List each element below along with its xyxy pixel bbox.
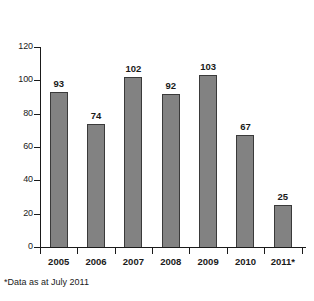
y-tick-label: 0 [7, 242, 33, 251]
y-tick-label: 40 [7, 175, 33, 184]
chart-footnote: *Data as at July 2011 [4, 277, 89, 288]
bar [162, 94, 180, 247]
y-tick-label: 120 [7, 42, 33, 51]
bar-value-label: 74 [79, 111, 113, 121]
x-tick-mark [189, 248, 190, 254]
y-tick-label: 60 [7, 142, 33, 151]
bar-value-label: 25 [266, 192, 300, 202]
bar [50, 92, 68, 247]
bar-value-label: 102 [116, 64, 150, 74]
x-axis-category-label: 2011* [261, 256, 305, 267]
plot-area [40, 47, 306, 247]
x-tick-mark [115, 248, 116, 254]
x-tick-mark [302, 248, 303, 254]
bar-value-label: 67 [228, 122, 262, 132]
bar [236, 135, 254, 247]
x-tick-mark [227, 248, 228, 254]
bar-value-label: 103 [191, 62, 225, 72]
x-tick-mark [77, 248, 78, 254]
x-tick-mark [264, 248, 265, 254]
x-axis-line [40, 247, 306, 248]
bar [124, 77, 142, 247]
bar-chart: 020406080100120 9374102921036725 2005200… [0, 0, 314, 301]
bar [199, 75, 217, 247]
y-tick-label: 80 [7, 109, 33, 118]
bar [87, 124, 105, 247]
bar [274, 205, 292, 247]
y-tick-label: 100 [7, 75, 33, 84]
x-tick-mark [152, 248, 153, 254]
x-tick-mark [40, 248, 41, 254]
y-tick-label: 20 [7, 209, 33, 218]
bar-value-label: 92 [154, 81, 188, 91]
bar-value-label: 93 [42, 79, 76, 89]
